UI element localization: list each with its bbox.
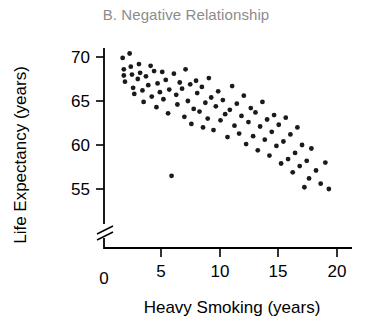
data-point	[276, 122, 281, 127]
data-point	[297, 164, 302, 169]
data-point	[255, 148, 260, 153]
data-point	[169, 173, 174, 178]
data-point	[172, 71, 177, 76]
y-axis-title: Life Expectancy (years)	[11, 66, 30, 244]
scatter-plot: 70 65 60 55 0 5 10 15 20 Heavy Smoking (…	[0, 0, 372, 333]
data-point	[223, 112, 228, 117]
data-point	[232, 123, 237, 128]
data-point	[281, 139, 286, 144]
x-tick-marks	[161, 248, 337, 257]
data-point	[241, 93, 246, 98]
data-point	[213, 104, 218, 109]
data-point	[230, 84, 235, 89]
data-point	[253, 110, 258, 115]
data-point	[160, 70, 165, 75]
data-point	[135, 77, 140, 82]
data-point	[183, 67, 188, 72]
data-point	[302, 185, 307, 190]
data-point	[191, 107, 196, 112]
data-point	[154, 105, 159, 110]
data-point	[209, 95, 214, 100]
data-point	[262, 137, 267, 142]
data-point	[211, 128, 216, 133]
data-point	[182, 114, 187, 119]
y-tick-label-60: 60	[71, 136, 90, 155]
x-tick-label-15: 15	[269, 262, 288, 281]
data-point	[227, 107, 232, 112]
chart-figure: B. Negative Relationship 70 65 60 55	[0, 0, 372, 333]
data-point	[309, 146, 314, 151]
data-point	[206, 76, 211, 81]
data-point	[269, 129, 274, 134]
data-point	[140, 88, 145, 93]
data-point	[295, 125, 300, 130]
data-point	[258, 124, 263, 129]
x-tick-label-0: 0	[99, 269, 108, 288]
data-point	[121, 67, 126, 72]
data-point	[121, 73, 126, 78]
data-point	[166, 111, 171, 116]
data-point	[318, 181, 323, 186]
data-point	[120, 55, 125, 60]
y-tick-label-70: 70	[71, 48, 90, 67]
y-tick-label-55: 55	[71, 180, 90, 199]
data-point	[260, 99, 265, 104]
data-point	[180, 86, 185, 91]
data-point	[286, 157, 291, 162]
data-point	[199, 85, 204, 90]
y-tick-marks	[96, 57, 104, 189]
data-point	[185, 99, 190, 104]
data-point	[274, 143, 279, 148]
data-point	[326, 187, 331, 192]
data-point	[293, 151, 298, 156]
data-point	[237, 131, 242, 136]
data-point	[174, 92, 179, 97]
data-point	[128, 64, 133, 69]
data-point	[304, 158, 309, 163]
x-axis-title: Heavy Smoking (years)	[144, 298, 321, 317]
data-point	[225, 135, 230, 140]
data-point	[152, 69, 157, 74]
data-point	[216, 89, 221, 94]
x-tick-label-20: 20	[328, 262, 347, 281]
data-point	[138, 70, 143, 75]
data-point	[323, 160, 328, 165]
data-point	[234, 101, 239, 106]
data-point	[201, 125, 206, 130]
data-point	[300, 143, 305, 148]
data-point	[149, 94, 154, 99]
data-point	[123, 79, 128, 84]
data-point	[197, 109, 202, 114]
data-point	[195, 91, 200, 96]
data-point	[272, 113, 277, 118]
data-point	[146, 83, 151, 88]
data-point	[130, 72, 135, 77]
data-point	[188, 82, 193, 87]
data-point	[132, 92, 137, 97]
data-point	[161, 97, 166, 102]
x-tick-label-5: 5	[156, 262, 165, 281]
data-point	[265, 117, 270, 122]
data-point	[137, 62, 142, 67]
data-point	[218, 118, 223, 123]
data-point	[141, 99, 146, 104]
data-point	[267, 153, 272, 158]
y-tick-label-65: 65	[71, 92, 90, 111]
data-point	[127, 51, 132, 56]
data-point	[314, 168, 319, 173]
data-point	[251, 134, 256, 139]
data-point	[248, 106, 253, 111]
data-point	[175, 102, 180, 107]
data-point	[288, 132, 293, 137]
data-point	[131, 85, 136, 90]
data-point	[177, 80, 182, 85]
data-point	[203, 100, 208, 105]
data-point	[239, 114, 244, 119]
data-point	[194, 78, 199, 83]
data-point	[189, 121, 194, 126]
data-point	[167, 87, 172, 92]
data-point	[144, 74, 149, 79]
data-point	[246, 120, 251, 125]
data-point	[205, 116, 210, 121]
data-point	[163, 77, 168, 82]
